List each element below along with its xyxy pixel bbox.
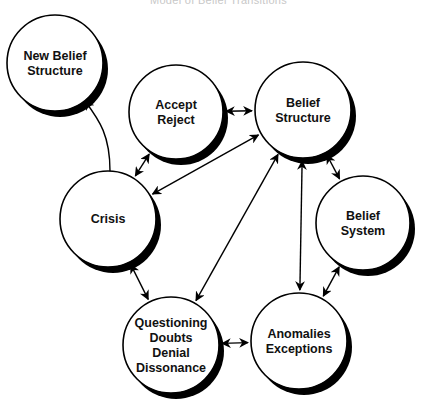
belief-transition-diagram: New BeliefStructureAcceptRejectBeliefStr… bbox=[0, 0, 437, 399]
edge-belief-structure-to-anomalies-exceptions bbox=[300, 161, 302, 290]
edge-belief-system-to-anomalies-exceptions bbox=[323, 267, 339, 296]
edge-crisis-to-new-belief-structure bbox=[85, 101, 110, 171]
node-label: Belief bbox=[346, 209, 381, 223]
node-label: Doubts bbox=[149, 331, 192, 345]
node-questioning: QuestioningDoubtsDenialDissonance bbox=[123, 297, 224, 399]
node-label: Anomalies bbox=[267, 327, 330, 341]
node-belief-structure: BeliefStructure bbox=[255, 62, 356, 164]
node-label: Accept bbox=[155, 98, 198, 112]
edge-crisis-to-accept-reject bbox=[135, 154, 149, 176]
node-label: Structure bbox=[27, 64, 83, 78]
node-new-belief-structure: New BeliefStructure bbox=[7, 15, 108, 117]
node-label: Denial bbox=[152, 346, 190, 360]
node-label: System bbox=[341, 224, 385, 238]
edge-questioning-to-anomalies-exceptions bbox=[222, 343, 248, 344]
node-accept-reject: AcceptReject bbox=[129, 65, 228, 165]
node-belief-system: BeliefSystem bbox=[316, 176, 415, 276]
node-anomalies-exceptions: AnomaliesExceptions bbox=[251, 293, 352, 395]
nodes-layer: New BeliefStructureAcceptRejectBeliefStr… bbox=[7, 15, 415, 399]
node-label: Dissonance bbox=[136, 361, 206, 375]
edge-crisis-to-questioning bbox=[131, 265, 148, 300]
node-label: Exceptions bbox=[266, 342, 333, 356]
node-label: Questioning bbox=[135, 316, 208, 330]
node-label: New Belief bbox=[23, 49, 87, 63]
node-label: Belief bbox=[286, 96, 321, 110]
node-label: Structure bbox=[275, 111, 331, 125]
node-crisis: Crisis bbox=[60, 171, 161, 273]
node-label: Crisis bbox=[91, 212, 126, 226]
edge-belief-structure-to-questioning bbox=[196, 154, 278, 300]
node-label: Reject bbox=[157, 113, 195, 127]
